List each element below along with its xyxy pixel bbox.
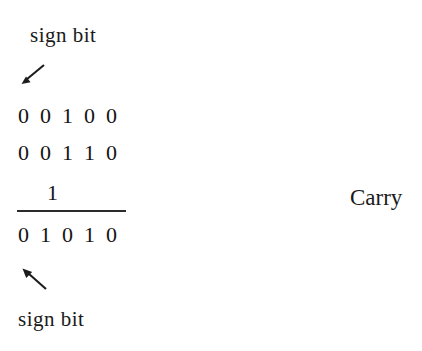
bit-cell: 0	[40, 105, 62, 127]
bit-cell: 1	[40, 224, 62, 246]
bit-cell: 0	[106, 105, 128, 127]
bit-cell: 1	[62, 105, 84, 127]
bit-cell: 0	[18, 142, 40, 164]
bit-cell: 0	[62, 224, 84, 246]
bit-cell: 1	[62, 142, 84, 164]
bit-cell: 0	[18, 105, 40, 127]
bit-cell: 1	[84, 142, 106, 164]
binary-addition-diagram: sign bit 00100 00110 1 01010 sign bit Ca…	[0, 0, 422, 351]
bit-cell: 0	[106, 142, 128, 164]
table-row: 00100	[18, 105, 128, 127]
bit-cell: 0	[18, 224, 40, 246]
bit-cell: 0	[40, 142, 62, 164]
carry-digit: 1	[47, 182, 58, 204]
bit-cell: 1	[84, 224, 106, 246]
arrow-up-left-icon	[18, 265, 50, 291]
carry-annotation-label: Carry	[350, 186, 402, 209]
bit-cell: 0	[84, 105, 106, 127]
bottom-sign-bit-label: sign bit	[18, 309, 84, 330]
top-sign-bit-label: sign bit	[30, 25, 96, 46]
arrow-down-left-icon	[18, 63, 48, 87]
sum-rule-divider	[17, 210, 126, 212]
table-row: 01010	[18, 224, 128, 246]
bit-cell: 0	[106, 224, 128, 246]
table-row: 00110	[18, 142, 128, 164]
